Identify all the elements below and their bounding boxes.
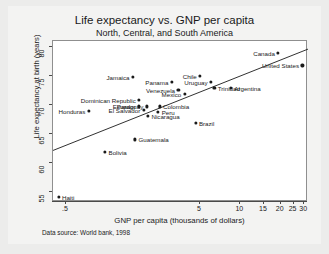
point-label: Paraguay [117,103,144,110]
plot-background: Life expectancy vs. GNP per capita North… [8,6,321,244]
y-tick-label: 70 [8,100,46,108]
chart-subtitle: North, Central, and South America [8,28,321,38]
point-label: Colombia [163,103,189,110]
x-tick-label: 25 [289,205,297,212]
x-tick-label: 15 [259,205,267,212]
point-label: Haiti [62,193,74,200]
point-label: Brazil [199,120,214,127]
y-tick-label: 60 [8,158,46,166]
x-tick-label: 10 [235,205,243,212]
x-tick-label: 30 [299,205,307,212]
x-tick-label: 5 [197,205,201,212]
point-label: Guatemala [139,136,169,143]
figure-canvas: Life expectancy vs. GNP per capita North… [0,0,329,254]
y-tick-label: 65 [8,129,46,137]
y-tick-label-text: 75 [39,78,46,86]
y-tick-label: 75 [8,71,46,79]
data-source-note: Data source: World bank, 1998 [42,229,130,236]
chart-title: Life expectancy vs. GNP per capita [8,14,321,26]
point-label: Jamaica [106,73,129,80]
y-tick-label-text: 65 [39,136,46,144]
point-label: Mexico [162,91,182,98]
y-tick-label-text: 55 [39,194,46,202]
point-label: Canada [253,49,275,56]
point-label: Honduras [59,108,86,115]
x-axis-label: GNP per capita (thousands of dollars) [52,216,307,225]
point-label: United States [262,62,299,69]
y-tick-label-text: 80 [39,49,46,57]
point-label: Bolivia [109,148,127,155]
x-tick-label: 20 [276,205,284,212]
y-tick-label-text: 60 [39,165,46,173]
plot-area: HaitiHondurasBoliviaDominican RepublicEc… [52,40,307,201]
x-tick-label: .5 [62,205,68,212]
point-label: Uruguay [184,79,207,86]
y-tick-label: 80 [8,42,46,50]
point-label: Argentina [234,84,261,91]
y-tick-label-text: 70 [39,107,46,115]
point-label: Panama [145,79,168,86]
y-tick-label: 55 [8,187,46,195]
